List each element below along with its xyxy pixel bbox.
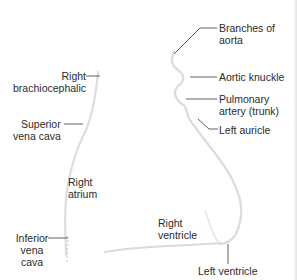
- label-line: Superior: [13, 118, 61, 130]
- label-inferior-vena-cava: Inferior vena cava: [12, 232, 52, 268]
- label-line: Right: [158, 217, 197, 229]
- label-line: Inferior: [12, 232, 52, 244]
- label-line: artery (trunk): [219, 105, 279, 117]
- label-line: cava: [12, 256, 52, 268]
- label-line: aorta: [219, 34, 275, 46]
- label-line: Aortic knuckle: [219, 71, 284, 83]
- label-superior-vena-cava: Superior vena cava: [13, 118, 61, 142]
- label-right-ventricle: Right ventricle: [158, 217, 197, 241]
- label-left-auricle: Left auricle: [219, 124, 270, 136]
- leader-left-auricle: [198, 119, 218, 129]
- label-line: vena cava: [13, 130, 61, 142]
- label-line: Right: [68, 176, 97, 188]
- label-line: brachiocephalic: [10, 82, 86, 94]
- label-line: Right: [10, 70, 86, 82]
- label-line: ventricle: [158, 229, 197, 241]
- label-left-ventricle: Left ventricle: [198, 265, 258, 277]
- heart-border-diagram: Branches of aorta Aortic knuckle Pulmona…: [0, 0, 297, 280]
- label-right-brachiocephalic: Right brachiocephalic: [10, 70, 86, 94]
- right-ventricle-inner-outline: [205, 210, 220, 244]
- right-heart-border: [65, 72, 98, 255]
- label-aortic-knuckle: Aortic knuckle: [219, 71, 284, 83]
- label-line: atrium: [68, 188, 97, 200]
- label-right-atrium: Right atrium: [68, 176, 97, 200]
- label-pulmonary-artery: Pulmonary artery (trunk): [219, 93, 279, 117]
- label-branches-of-aorta: Branches of aorta: [219, 22, 275, 46]
- label-line: Pulmonary: [219, 93, 279, 105]
- page-edge: [294, 0, 297, 280]
- label-line: Branches of: [219, 22, 275, 34]
- label-line: Left auricle: [219, 124, 270, 136]
- label-line: Left ventricle: [198, 265, 258, 277]
- leader-branches-of-aorta: [174, 28, 217, 54]
- label-line: vena: [12, 244, 52, 256]
- inferior-heart-border: [105, 243, 222, 252]
- inferior-vena-cava-outline: [67, 236, 68, 262]
